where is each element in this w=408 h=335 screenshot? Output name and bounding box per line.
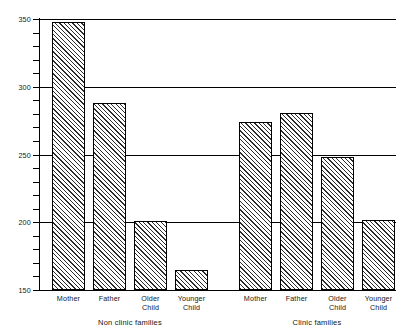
- y-tick-minor-280: [33, 114, 39, 115]
- y-tick-minor-270: [33, 127, 39, 128]
- y-tick-major-350: [33, 19, 40, 20]
- x-axis-category-label: Mother: [46, 294, 92, 303]
- y-tick-label-250: 250: [5, 150, 31, 159]
- y-tick-minor-220: [33, 195, 39, 196]
- y-tick-label-350: 350: [5, 15, 31, 24]
- x-axis-category-label: Older Child: [128, 294, 174, 312]
- bar: [280, 113, 313, 291]
- bar: [134, 221, 167, 290]
- y-tick-major-200: [33, 222, 40, 223]
- x-axis-category-label: Younger Child: [169, 294, 215, 312]
- y-tick-major-300: [33, 87, 40, 88]
- y-tick-major-150: [33, 290, 40, 291]
- x-axis-category-label: Father: [87, 294, 133, 303]
- x-axis-category-label: Younger Child: [356, 294, 402, 312]
- y-tick-minor-230: [33, 182, 39, 183]
- bar: [239, 122, 272, 290]
- y-tick-minor-310: [33, 73, 39, 74]
- y-tick-minor-340: [33, 33, 39, 34]
- bar: [52, 22, 85, 290]
- bar: [93, 103, 126, 290]
- bar: [321, 157, 354, 290]
- plot-area: [40, 19, 396, 290]
- y-tick-minor-210: [33, 209, 39, 210]
- y-tick-label-150: 150: [5, 286, 31, 295]
- y-tick-minor-330: [33, 46, 39, 47]
- gridline-300: [40, 87, 396, 88]
- x-axis-group-label: Clinic families: [293, 318, 342, 327]
- gridline-350: [40, 19, 396, 20]
- x-axis-group-label: Non clinic families: [98, 318, 162, 327]
- bar-chart: 150200250300350 MotherFatherOlder ChildY…: [0, 0, 408, 335]
- y-tick-minor-290: [33, 100, 39, 101]
- x-axis-category-label: Mother: [233, 294, 279, 303]
- y-tick-label-300: 300: [5, 82, 31, 91]
- y-tick-minor-240: [33, 168, 39, 169]
- x-axis-category-label: Older Child: [315, 294, 361, 312]
- y-tick-label-200: 200: [5, 218, 31, 227]
- y-tick-minor-190: [33, 236, 39, 237]
- bar: [175, 270, 208, 290]
- x-axis-category-label: Father: [274, 294, 320, 303]
- y-tick-minor-160: [33, 276, 39, 277]
- y-tick-major-250: [33, 155, 40, 156]
- bar: [362, 220, 395, 290]
- y-tick-minor-170: [33, 263, 39, 264]
- y-tick-minor-180: [33, 249, 39, 250]
- y-tick-minor-260: [33, 141, 39, 142]
- y-tick-minor-320: [33, 60, 39, 61]
